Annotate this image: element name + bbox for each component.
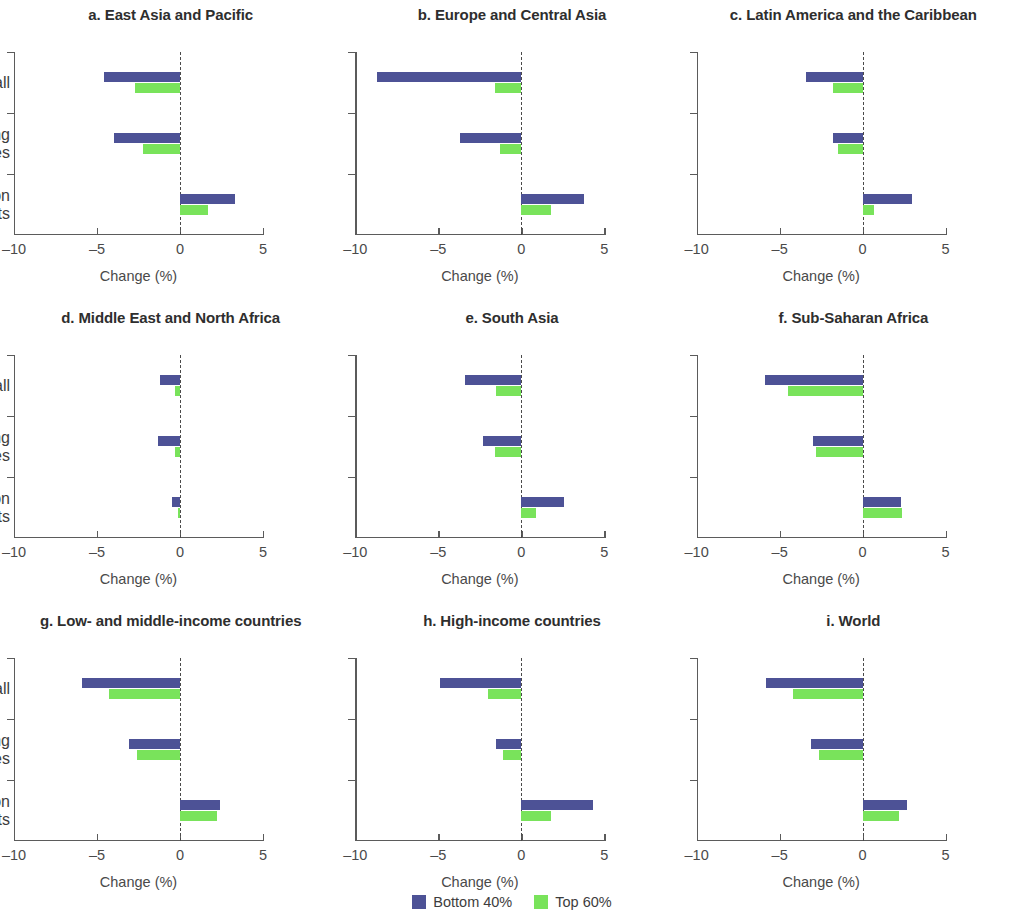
x-tick-1 xyxy=(780,228,781,235)
bar-f-cat2-bottom40 xyxy=(863,497,901,507)
bar-d-cat1-top60 xyxy=(175,447,180,457)
category-label-1: Reshoring leading economies xyxy=(0,126,10,162)
bar-d-cat2-top60 xyxy=(178,508,180,518)
x-axis-line xyxy=(697,234,946,235)
chart-panel-e: e. South Asia–10–505Change (%) xyxy=(341,303,682,606)
plot-area-g xyxy=(14,658,263,841)
x-axis-caption-g: Change (%) xyxy=(14,874,263,890)
bar-g-cat2-top60 xyxy=(180,811,217,821)
x-tick-1 xyxy=(780,834,781,841)
y-tick-2 xyxy=(690,174,697,175)
x-axis-line xyxy=(697,537,946,538)
x-axis-caption-e: Change (%) xyxy=(355,571,604,587)
panel-title-e: e. South Asia xyxy=(341,309,682,326)
y-tick-2 xyxy=(7,174,14,175)
x-tick-labels-g: –10–505 xyxy=(14,847,263,867)
category-label-1: Reshoring leading economies xyxy=(0,732,10,768)
x-tick-1 xyxy=(97,834,98,841)
y-axis-line xyxy=(355,658,356,841)
plot-area-d xyxy=(14,355,263,538)
x-tick-label-2: 0 xyxy=(517,847,525,863)
bar-h-cat0-top60 xyxy=(488,689,521,699)
chart-panel-f: f. Sub-Saharan Africa–10–505Change (%) xyxy=(683,303,1024,606)
legend-item-top-60: Top 60% xyxy=(534,894,611,910)
chart-panel-i: i. World–10–505Change (%) xyxy=(683,606,1024,909)
bar-b-cat1-bottom40 xyxy=(460,133,521,143)
chart-panel-h: h. High-income countries–10–505Change (%… xyxy=(341,606,682,909)
bar-b-cat0-top60 xyxy=(495,83,522,93)
x-tick-1 xyxy=(438,228,439,235)
panel-title-c: c. Latin America and the Caribbean xyxy=(683,6,1024,23)
chart-panel-c: c. Latin America and the Caribbean–10–50… xyxy=(683,0,1024,303)
x-tick-label-0: –10 xyxy=(343,544,367,560)
plot-area-e xyxy=(355,355,604,538)
x-tick-label-0: –10 xyxy=(343,847,367,863)
x-tick-labels-i: –10–505 xyxy=(697,847,946,867)
bar-e-cat2-bottom40 xyxy=(521,497,564,507)
y-tick-0 xyxy=(348,658,355,659)
x-axis-line xyxy=(355,537,604,538)
bar-b-cat2-bottom40 xyxy=(521,194,584,204)
legend-item-bottom-40: Bottom 40% xyxy=(412,894,512,910)
panel-title-a: a. East Asia and Pacific xyxy=(0,6,341,23)
x-tick-0 xyxy=(14,531,15,538)
bar-f-cat0-top60 xyxy=(788,386,863,396)
x-tick-3 xyxy=(263,531,264,538)
bar-c-cat0-top60 xyxy=(833,83,863,93)
y-tick-2 xyxy=(348,780,355,781)
legend-label-bottom-40: Bottom 40% xyxy=(433,894,512,910)
bar-c-cat0-bottom40 xyxy=(806,72,862,82)
x-tick-labels-e: –10–505 xyxy=(355,544,604,564)
y-tick-0 xyxy=(348,52,355,53)
chart-legend: Bottom 40% Top 60% xyxy=(0,894,1024,910)
x-tick-label-2: 0 xyxy=(176,847,184,863)
panel-title-h: h. High-income countries xyxy=(341,612,682,629)
zero-reference-line xyxy=(180,355,181,538)
y-tick-0 xyxy=(7,52,14,53)
chart-panel-d: d. Middle East and North AfricaReshoring… xyxy=(0,303,341,606)
x-tick-label-3: 5 xyxy=(942,544,950,560)
bar-a-cat2-bottom40 xyxy=(180,194,235,204)
x-tick-3 xyxy=(946,531,947,538)
y-tick-2 xyxy=(348,477,355,478)
bar-g-cat1-bottom40 xyxy=(129,739,180,749)
x-tick-1 xyxy=(780,531,781,538)
y-axis-line xyxy=(14,52,15,235)
x-axis-caption-h: Change (%) xyxy=(355,874,604,890)
bar-a-cat1-bottom40 xyxy=(114,133,180,143)
bar-d-cat0-bottom40 xyxy=(160,375,180,385)
x-axis-caption-d: Change (%) xyxy=(14,571,263,587)
bar-f-cat0-bottom40 xyxy=(765,375,863,385)
category-label-2: GVC-friendly liberalization + TF imports xyxy=(0,490,10,526)
x-axis-line xyxy=(14,840,263,841)
category-label-0: Reshoring all xyxy=(0,680,10,698)
x-tick-label-1: –5 xyxy=(772,847,788,863)
plot-area-i xyxy=(697,658,946,841)
x-tick-label-3: 5 xyxy=(600,847,608,863)
y-tick-2 xyxy=(7,780,14,781)
y-tick-2 xyxy=(690,780,697,781)
panel-row: a. East Asia and PacificReshoring allRes… xyxy=(0,0,1024,303)
bar-e-cat1-bottom40 xyxy=(483,436,521,446)
bar-i-cat1-bottom40 xyxy=(811,739,862,749)
x-tick-label-3: 5 xyxy=(942,847,950,863)
x-tick-labels-c: –10–505 xyxy=(697,241,946,261)
bar-e-cat2-top60 xyxy=(521,508,536,518)
bar-d-cat2-bottom40 xyxy=(172,497,180,507)
x-axis-line xyxy=(14,537,263,538)
x-tick-label-2: 0 xyxy=(517,241,525,257)
y-tick-0 xyxy=(7,355,14,356)
x-tick-label-2: 0 xyxy=(859,544,867,560)
y-tick-2 xyxy=(690,477,697,478)
x-axis-line xyxy=(355,840,604,841)
bar-a-cat0-top60 xyxy=(135,83,180,93)
plot-area-h xyxy=(355,658,604,841)
bar-b-cat2-top60 xyxy=(521,205,551,215)
bar-i-cat1-top60 xyxy=(819,750,862,760)
x-tick-label-2: 0 xyxy=(176,544,184,560)
panel-title-d: d. Middle East and North Africa xyxy=(0,309,341,326)
x-tick-label-3: 5 xyxy=(600,544,608,560)
x-axis-caption-a: Change (%) xyxy=(14,268,263,284)
category-label-0: Reshoring all xyxy=(0,74,10,92)
x-tick-label-3: 5 xyxy=(259,241,267,257)
